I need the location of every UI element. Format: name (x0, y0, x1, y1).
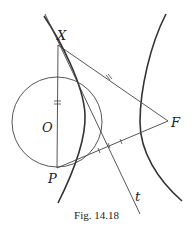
segment-xf (58, 45, 168, 121)
figure-caption: Fig. 14.18 (0, 209, 193, 221)
label-p: P (47, 171, 57, 186)
segment-pf (57, 121, 168, 168)
label-f: F (170, 115, 181, 130)
diagram-figure: X O P F t (0, 0, 193, 237)
hyperbola-right-branch (140, 14, 182, 201)
segment-xp (57, 45, 58, 168)
tangent-line-t (45, 14, 140, 214)
label-o: O (42, 120, 53, 135)
label-x: X (56, 28, 67, 43)
label-t: t (135, 189, 141, 204)
